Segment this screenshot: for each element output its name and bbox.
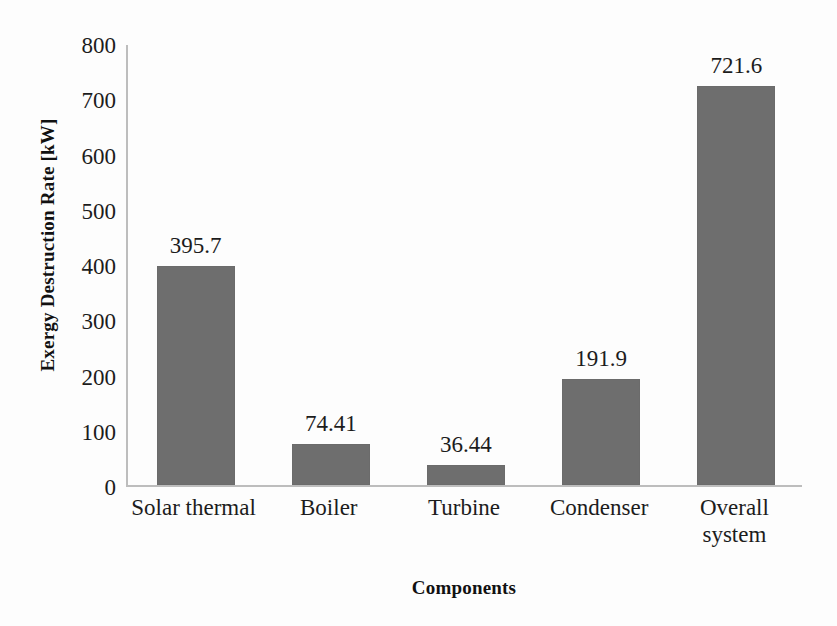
y-axis-tick-label: 200: [26, 365, 116, 388]
exergy-destruction-bar-chart: Exergy Destruction Rate [kW] 80070060050…: [0, 0, 837, 626]
y-axis-tick-labels: 8007006005004003002001000: [10, 45, 116, 487]
x-axis-tick-label: Overall system: [667, 494, 802, 548]
bar-value-label: 395.7: [170, 234, 222, 257]
bar-group: 74.41: [263, 45, 398, 485]
y-axis-tick-label: 100: [26, 420, 116, 443]
bar-group: 721.6: [669, 45, 804, 485]
plot-area: 395.774.4136.44191.9721.6: [126, 45, 802, 487]
x-axis-tick-label: Turbine: [396, 494, 531, 521]
bar-group: 36.44: [398, 45, 533, 485]
bar: [562, 379, 640, 485]
y-axis-tick-label: 700: [26, 89, 116, 112]
x-axis-tick-label: Condenser: [532, 494, 667, 521]
x-axis-tick-labels: Solar thermalBoilerTurbineCondenserOvera…: [126, 494, 802, 570]
bar-value-label: 36.44: [440, 433, 492, 456]
y-axis-tick-label: 800: [26, 34, 116, 57]
bar-value-label: 721.6: [711, 54, 763, 77]
x-axis-tick-label: Boiler: [261, 494, 396, 521]
bar: [157, 266, 235, 485]
bar-value-label: 191.9: [575, 347, 627, 370]
y-axis-tick-label: 400: [26, 255, 116, 278]
x-axis-tick-label: Solar thermal: [126, 494, 261, 521]
y-axis-tick-label: 600: [26, 144, 116, 167]
bar-group: 191.9: [534, 45, 669, 485]
y-axis-tick-label: 300: [26, 310, 116, 333]
y-axis-tick-label: 500: [26, 199, 116, 222]
y-axis-tick-label: 0: [26, 476, 116, 499]
bar: [697, 86, 775, 485]
bar: [292, 444, 370, 485]
bar-value-label: 74.41: [305, 412, 357, 435]
x-axis-title: Components: [126, 577, 802, 599]
bar-group: 395.7: [128, 45, 263, 485]
bar: [427, 465, 505, 485]
